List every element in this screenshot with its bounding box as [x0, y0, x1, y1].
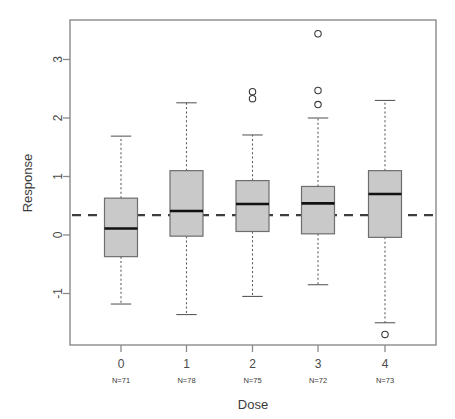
boxplot-figure: -10123 0N=711N=782N=753N=724N=73 Respons…: [0, 0, 455, 419]
x-axis-title: Dose: [238, 397, 268, 412]
y-tick-label: 3: [51, 56, 65, 63]
x-tick-label: 1: [183, 357, 190, 371]
box-iqr: [369, 171, 402, 238]
box-iqr: [302, 186, 335, 233]
x-tick-label: 4: [382, 357, 389, 371]
group-count-label: N=72: [309, 376, 327, 385]
group-count-label: N=75: [243, 376, 261, 385]
box-iqr: [170, 171, 203, 237]
x-tick-label: 3: [315, 357, 322, 371]
y-tick-label: -1: [51, 288, 65, 299]
y-tick-label: 2: [51, 114, 65, 121]
group-count-label: N=78: [177, 376, 195, 385]
box-iqr: [236, 181, 269, 232]
y-tick-label: 1: [51, 173, 65, 180]
y-tick-label: 0: [51, 231, 65, 238]
y-axis-title: Response: [20, 154, 35, 213]
x-tick-label: 2: [249, 357, 256, 371]
group-count-label: N=73: [376, 376, 394, 385]
boxplot-canvas: -10123 0N=711N=782N=753N=724N=73 Respons…: [0, 0, 455, 419]
x-tick-label: 0: [118, 357, 125, 371]
group-count-label: N=71: [112, 376, 130, 385]
